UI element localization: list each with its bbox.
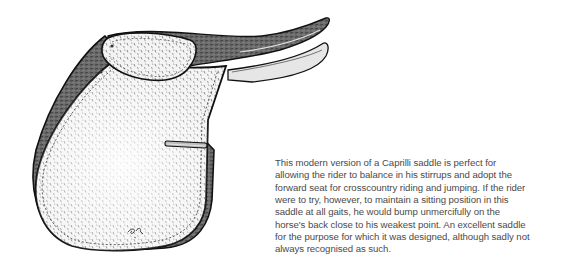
caption-line: horse's back close to his weakest point.… (275, 219, 571, 231)
caption-line: forward seat for crosscountry riding and… (275, 182, 571, 194)
caption-text: This modern version of a Caprilli saddle… (275, 157, 571, 256)
caption-line: for the purpose for which it was designe… (275, 231, 571, 243)
caption-line: always recognised as such. (275, 243, 571, 255)
caption-line: were to try, however, to maintain a sitt… (275, 194, 571, 206)
caption-line: saddle at all gaits, he would bump unmer… (275, 206, 571, 218)
caption-line: allowing the rider to balance in his sti… (275, 169, 571, 181)
caption-line: This modern version of a Caprilli saddle… (275, 157, 571, 169)
